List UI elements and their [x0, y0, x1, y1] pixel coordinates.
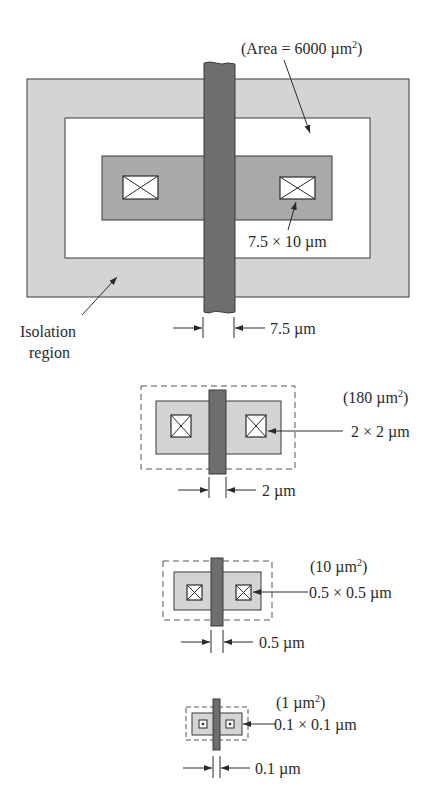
gate-length-dimension: 2 µm: [178, 477, 296, 500]
isolation-label-line1: Isolation: [20, 323, 76, 340]
area-label: (Area = 6000 µm2): [241, 39, 362, 58]
gate-length-dimension: 0.1 µm: [183, 756, 301, 778]
transistor-3: (10 µm2) 0.5 × 0.5 µm 0.5 µm: [163, 557, 392, 653]
gate-length-dimension: 7.5 µm: [173, 317, 316, 338]
gate-length-label: 2 µm: [262, 482, 296, 500]
isolation-label-line2: region: [29, 344, 70, 362]
contact-size-label: 2 × 2 µm: [351, 423, 410, 441]
contact-size-label: 7.5 × 10 µm: [248, 233, 327, 251]
contact-left: [199, 720, 207, 728]
contact-right: [246, 415, 266, 437]
gate-poly: [204, 62, 235, 313]
contact-left: [171, 415, 191, 437]
transistor-scaling-diagram: (Area = 6000 µm2) 7.5 × 10 µm Isolation …: [0, 0, 447, 797]
gate-length-label: 7.5 µm: [270, 320, 316, 338]
transistor-4: (1 µm2) 0.1 × 0.1 µm 0.1 µm: [183, 693, 357, 778]
area-label: (10 µm2): [310, 557, 367, 576]
gate-poly: [209, 390, 226, 474]
area-label: (180 µm2): [343, 388, 408, 407]
transistor-1: (Area = 6000 µm2) 7.5 × 10 µm Isolation …: [20, 39, 409, 362]
contact-left: [123, 176, 158, 199]
gate-poly: [211, 558, 223, 626]
transistor-2: (180 µm2) 2 × 2 µm 2 µm: [141, 386, 410, 500]
contact-left: [187, 585, 202, 600]
area-label: (1 µm2): [276, 693, 325, 712]
gate-length-label: 0.1 µm: [255, 760, 301, 778]
gate-length-label: 0.5 µm: [259, 634, 305, 652]
contact-size-label: 0.5 × 0.5 µm: [309, 584, 392, 602]
contact-right: [280, 177, 315, 199]
gate-length-dimension: 0.5 µm: [181, 630, 305, 653]
contact-right: [236, 585, 251, 600]
gate-poly: [213, 699, 220, 750]
contact-size-label: 0.1 × 0.1 µm: [274, 716, 357, 734]
contact-right: [226, 720, 234, 728]
